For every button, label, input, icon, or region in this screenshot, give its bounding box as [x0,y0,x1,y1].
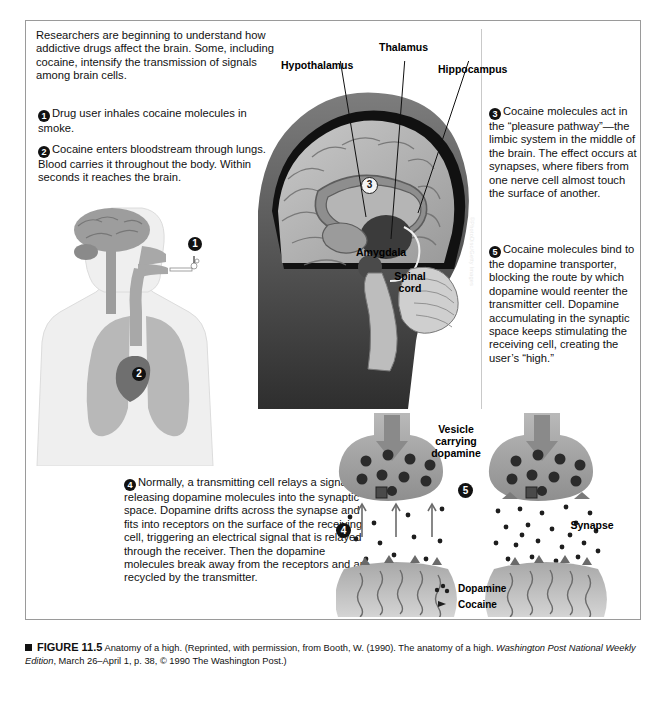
caption-figure-number: FIGURE 11.5 [37,641,102,653]
body-illustration-svg [34,206,264,466]
photo-credit: ©PhotoDisc/Getty Images [469,217,475,286]
label-amygdala: Amygdala [356,246,406,258]
figure-caption: FIGURE 11.5 Anatomy of a high. (Reprinte… [25,641,645,668]
legend-label-dopamine: Dopamine [458,583,506,594]
synapse-marker-5: 5 [458,483,473,498]
step-4-number: 4 [124,479,136,491]
column-divider [481,29,482,409]
step-2-paragraph: 2Cocaine enters bloodstream through lung… [38,143,281,185]
brain-sagittal-illustration: 3 [258,61,480,409]
step-5-paragraph: 5Cocaine molecules bind to the dopamine … [489,243,639,365]
legend: Dopamine Cocaine [434,580,506,612]
step-4-text: Normally, a transmitting cell relays a s… [124,476,370,583]
brainstem-shape [106,248,116,314]
legend-row-dopamine: Dopamine [434,580,506,596]
body-marker-1: 1 [188,237,202,251]
dopamine-dots-right [494,505,601,564]
dopamine-transporter-right [526,487,537,498]
intro-text: Researchers are beginning to understand … [36,29,286,83]
caption-source-part1: (Reprinted, with permission, from Booth,… [185,643,496,653]
step-3-number: 3 [489,108,501,120]
reuptake-arrows [358,504,436,537]
label-spinal-cord: Spinal cord [389,270,431,294]
step-5-number: 5 [489,246,501,258]
step-3-text: Cocaine molecules act in the “pleasure p… [489,105,637,199]
step-2-number: 2 [38,146,50,158]
body-respiratory-illustration: 1 2 [34,206,264,466]
cigarette-icon [170,259,199,271]
synapse-marker-4: 4 [336,523,351,538]
step-2-text: Cocaine enters bloodstream through lungs… [38,143,266,183]
brain-photo-svg [258,61,480,409]
label-vesicle-carrying-dopamine: Vesicle carrying dopamine [421,423,491,459]
caption-bullet-icon [25,644,32,651]
caption-source-part2: , March 26–April 1, p. 38, © 1990 The Wa… [53,656,286,666]
intro-paragraph: Researchers are beginning to understand … [36,29,286,83]
label-hippocampus: Hippocampus [438,63,507,75]
cocaine-icon [434,598,450,610]
figure-panel: Researchers are beginning to understand … [25,20,641,620]
brain-marker-3: 3 [361,177,378,194]
label-thalamus: Thalamus [379,41,428,53]
dopamine-transporter-left [376,487,387,498]
legend-label-cocaine: Cocaine [458,599,497,610]
step-3-paragraph: 3Cocaine molecules act in the “pleasure … [489,105,637,200]
step-1-paragraph: 1Drug user inhales cocaine molecules in … [38,107,276,135]
dopamine-icon [434,582,450,594]
legend-row-cocaine: Cocaine [434,596,506,612]
step-5-text: Cocaine molecules bind to the dopamine t… [489,243,634,364]
step-1-number: 1 [38,110,50,122]
step-1-text: Drug user inhales cocaine molecules in s… [38,107,247,134]
label-synapse: Synapse [564,519,620,531]
caption-title: Anatomy of a high. [105,643,183,653]
cerebellum-shape [74,244,98,260]
body-marker-2: 2 [132,367,146,381]
label-hypothalamus: Hypothalamus [281,59,353,71]
